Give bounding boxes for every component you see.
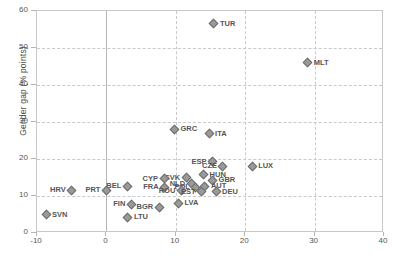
data-point-label: CYP <box>143 175 158 183</box>
y-tick-label: 60 <box>2 6 28 14</box>
data-point-label: PRT <box>85 186 100 194</box>
gridline-horizontal <box>37 122 382 123</box>
gridline-vertical <box>245 11 246 231</box>
x-tick-label: 20 <box>229 236 259 245</box>
x-tick-label: 40 <box>368 236 395 245</box>
data-point-label: HRV <box>50 186 66 194</box>
x-tick-label: -10 <box>21 236 51 245</box>
data-point-label: EST <box>181 188 196 196</box>
data-point-marker[interactable] <box>169 124 179 134</box>
data-point-label: GRC <box>180 125 197 133</box>
data-point-marker[interactable] <box>204 129 214 139</box>
data-point-label: FRA <box>143 183 158 191</box>
data-point-marker[interactable] <box>247 161 257 171</box>
gridline-horizontal <box>37 196 382 197</box>
y-tick-mark <box>31 158 36 159</box>
data-point-label: LTU <box>134 213 148 221</box>
gridline-vertical <box>176 11 177 231</box>
data-point-label: TUR <box>220 20 235 28</box>
data-point-marker[interactable] <box>303 58 313 68</box>
y-tick-label: 30 <box>2 117 28 125</box>
data-point-marker[interactable] <box>199 170 209 180</box>
data-point-marker[interactable] <box>209 19 219 29</box>
x-tick-label: 0 <box>90 236 120 245</box>
y-tick-label: 20 <box>2 154 28 162</box>
data-point-label: SVN <box>52 211 67 219</box>
data-point-label: DEU <box>222 188 238 196</box>
data-point-label: ITA <box>215 130 227 138</box>
y-tick-mark <box>31 195 36 196</box>
data-point-label: ROU <box>159 187 176 195</box>
data-point-label: MLT <box>314 59 329 67</box>
data-point-marker[interactable] <box>41 210 51 220</box>
data-point-label: BGR <box>136 203 153 211</box>
x-tick-label: 10 <box>160 236 190 245</box>
y-tick-label: 40 <box>2 80 28 88</box>
scatter-chart: TURMLTGRCITAESPCZELUXHUNGBRSVKCYPNLDAUTP… <box>0 0 395 261</box>
data-point-label: FIN <box>113 200 125 208</box>
y-tick-mark <box>31 47 36 48</box>
x-tick-label: 30 <box>299 236 329 245</box>
y-tick-label: 10 <box>2 191 28 199</box>
gridline-vertical <box>315 11 316 231</box>
gridline-horizontal <box>37 85 382 86</box>
y-tick-label: 0 <box>2 228 28 236</box>
gridline-vertical <box>106 11 107 231</box>
data-point-label: LVA <box>185 199 199 207</box>
y-tick-mark <box>31 121 36 122</box>
y-tick-mark <box>31 84 36 85</box>
y-tick-mark <box>31 10 36 11</box>
data-point-marker[interactable] <box>67 185 77 195</box>
gridline-horizontal <box>37 48 382 49</box>
data-point-label: LUX <box>258 162 273 170</box>
data-point-marker[interactable] <box>122 181 132 191</box>
plot-area: TURMLTGRCITAESPCZELUXHUNGBRSVKCYPNLDAUTP… <box>36 10 383 232</box>
data-point-marker[interactable] <box>123 212 133 222</box>
y-axis-title: Gender gap (% points) <box>18 16 28 166</box>
data-point-marker[interactable] <box>154 202 164 212</box>
data-point-marker[interactable] <box>126 199 136 209</box>
y-tick-label: 50 <box>2 43 28 51</box>
